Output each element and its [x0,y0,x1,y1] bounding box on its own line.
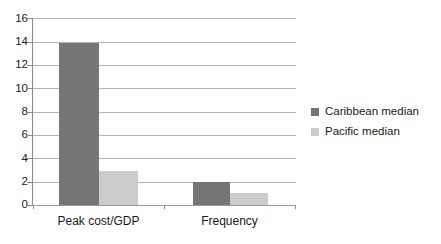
x-axis-tick [295,205,296,209]
y-axis-tick-label: 12 [4,59,28,71]
y-axis-tick-label: 10 [4,83,28,95]
x-axis-label-peak-cost-gdp: Peak cost/GDP [33,214,164,228]
bar-pacific-frequency [230,193,268,205]
x-axis-tick [33,205,34,209]
x-axis-label-frequency: Frequency [164,214,295,228]
bar-caribbean-frequency [193,182,230,205]
gridline [33,18,296,19]
y-axis-tick-label: 8 [4,106,28,118]
y-axis-tick-label: 2 [4,176,28,188]
y-axis-tick-label: 16 [4,13,28,25]
legend-item-pacific-median: Pacific median [311,123,436,140]
x-axis-tick [164,205,165,209]
plot-area [33,18,296,205]
chart-legend: Caribbean median Pacific median [311,103,436,143]
legend-swatch-icon [311,108,319,116]
legend-item-caribbean-median: Caribbean median [311,103,436,120]
y-axis-tick-label: 6 [4,129,28,141]
y-axis-tick-label: 14 [4,36,28,48]
y-axis-tick-label: 4 [4,153,28,165]
legend-label: Pacific median [325,125,400,138]
y-axis-tick-label: 0 [4,199,28,211]
y-axis-labels: 16 14 12 10 8 6 4 2 0 [0,0,28,244]
bar-chart: 16 14 12 10 8 6 4 2 0 [0,0,441,244]
bar-caribbean-peak-cost-gdp [59,43,99,205]
bar-pacific-peak-cost-gdp [99,171,138,205]
legend-label: Caribbean median [325,105,419,118]
legend-swatch-icon [311,128,319,136]
